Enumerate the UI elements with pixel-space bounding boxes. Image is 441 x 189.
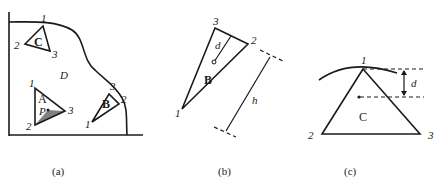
panel-a: D C 1 2 3 A P 1 2 3 B 1 2 3 (a): [9, 12, 143, 178]
triangle-c-vertex-2: 2: [14, 39, 20, 51]
arrow-up-head: [401, 70, 407, 75]
triangle-a-vertex-3: 3: [67, 104, 74, 116]
triangle-a-label: A: [38, 92, 47, 106]
vertex-1-label: 1: [175, 107, 181, 119]
triangle-c-label: C: [34, 35, 43, 49]
panel-c: d C 1 2 3 (c): [308, 54, 434, 178]
triangle-c-large: [322, 69, 420, 134]
triangle-c-vertex-1: 1: [41, 12, 47, 24]
triangle-a-vertex-1: 1: [29, 77, 35, 89]
vertex-2-label: 2: [308, 129, 314, 141]
caption-a: (a): [52, 165, 65, 178]
height-h-line: [226, 57, 270, 131]
distance-d-label: d: [411, 77, 417, 89]
triangle-a-vertex-2: 2: [26, 120, 32, 132]
panel-b: d B 3 2 1 h (b): [175, 15, 285, 178]
arrow-down-head: [401, 91, 407, 96]
centroid-point: [357, 95, 360, 98]
vertex-3-label: 3: [427, 129, 434, 141]
point-p-label: P: [38, 105, 46, 117]
triangle-b-vertex-3: 3: [109, 80, 116, 92]
domain-boundary: [9, 22, 127, 135]
triangle-c-large-label: C: [359, 110, 367, 124]
caption-c: (c): [344, 165, 357, 178]
caption-b: (b): [218, 165, 231, 178]
triangle-c-vertex-3: 3: [51, 48, 58, 60]
vertex-1-label: 1: [361, 54, 367, 66]
region-d-label: D: [59, 69, 68, 81]
triangle-b-large-label: B: [204, 73, 212, 87]
centroid-point: [212, 60, 216, 64]
vertex-2-label: 2: [251, 34, 257, 46]
triangle-b-label: B: [102, 97, 110, 111]
height-h-label: h: [252, 94, 258, 106]
point-p: [47, 109, 50, 112]
height-extension-bottom: [214, 127, 236, 137]
height-extension-top: [260, 50, 285, 62]
triangle-b-vertex-1: 1: [85, 118, 91, 130]
figure: D C 1 2 3 A P 1 2 3 B 1 2 3 (a) d B 3 2 …: [0, 0, 441, 189]
triangle-b-vertex-2: 2: [121, 93, 127, 105]
distance-d-label: d: [215, 39, 221, 51]
vertex-3-label: 3: [212, 15, 219, 27]
